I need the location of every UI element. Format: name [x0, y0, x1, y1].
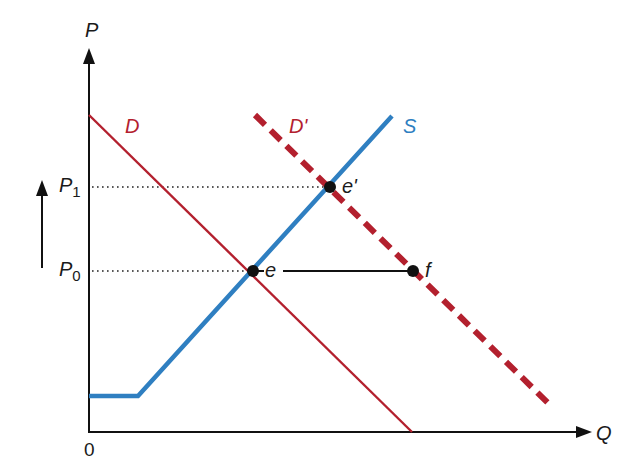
- point-label-f: f: [425, 260, 431, 280]
- x-axis-label: Q: [596, 423, 612, 443]
- price-label-p1: P1: [59, 175, 81, 199]
- p1-base: P: [59, 174, 72, 196]
- curve-label-d: D: [125, 116, 139, 136]
- point-e: [247, 265, 259, 277]
- x-axis-arrow-icon: [576, 426, 592, 438]
- point-e-prime: [324, 181, 336, 193]
- supply-demand-diagram: [0, 0, 625, 469]
- up-arrow-icon: [36, 180, 48, 196]
- p1-subscript: 1: [72, 183, 80, 200]
- point-f: [407, 265, 419, 277]
- point-label-e: e: [265, 260, 276, 280]
- demand-curve-d-prime: [255, 115, 550, 405]
- p0-subscript: 0: [72, 267, 80, 284]
- y-axis-arrow-icon: [83, 48, 95, 64]
- origin-label: 0: [84, 440, 95, 459]
- curve-label-s: S: [403, 116, 416, 136]
- y-axis-label: P: [85, 20, 98, 40]
- price-label-p0: P0: [59, 259, 81, 283]
- p0-base: P: [59, 258, 72, 280]
- curve-label-d-prime: D': [289, 116, 307, 136]
- point-label-e-prime: e': [342, 176, 357, 196]
